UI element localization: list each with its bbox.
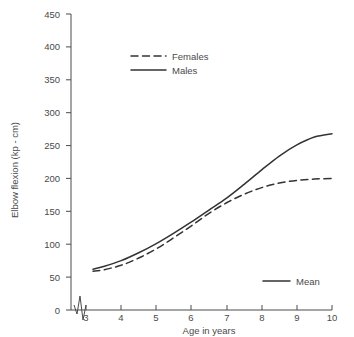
x-tick-label-8: 8	[259, 312, 264, 323]
y-tick-label-450: 450	[44, 9, 60, 20]
y-tick-label-200: 200	[44, 173, 60, 184]
y-tick-label-350: 350	[44, 74, 60, 85]
y-tick-label-150: 150	[44, 206, 60, 217]
x-tick-label-10: 10	[327, 312, 338, 323]
y-tick-label-50: 50	[49, 272, 60, 283]
x-tick-label-4: 4	[118, 312, 123, 323]
x-tick-label-7: 7	[224, 312, 229, 323]
mean-label: Mean	[296, 276, 320, 287]
y-axis-title: Elbow flexion (kp - cm)	[9, 122, 20, 218]
x-axis-ticks	[86, 305, 332, 310]
x-tick-label-5: 5	[153, 312, 158, 323]
x-axis-title: Age in years	[183, 325, 236, 336]
y-tick-label-0: 0	[55, 305, 60, 316]
y-tick-label-250: 250	[44, 140, 60, 151]
x-tick-label-3: 3	[83, 312, 88, 323]
y-tick-label-400: 400	[44, 41, 60, 52]
legend-label-females: Females	[172, 51, 209, 62]
legend-label-males: Males	[172, 65, 198, 76]
y-tick-label-300: 300	[44, 107, 60, 118]
chart-legend: Females Males	[131, 51, 209, 76]
x-tick-label-6: 6	[188, 312, 193, 323]
x-tick-label-9: 9	[294, 312, 299, 323]
y-axis-ticks	[66, 14, 71, 310]
y-tick-label-100: 100	[44, 239, 60, 250]
chart-figure: 450 400 350 300 250 200 150 100 50 0 3 4…	[0, 0, 354, 337]
series-line-males	[93, 134, 332, 270]
mean-note: Mean	[263, 276, 320, 287]
elbow-flexion-line-chart: 450 400 350 300 250 200 150 100 50 0 3 4…	[0, 0, 354, 337]
